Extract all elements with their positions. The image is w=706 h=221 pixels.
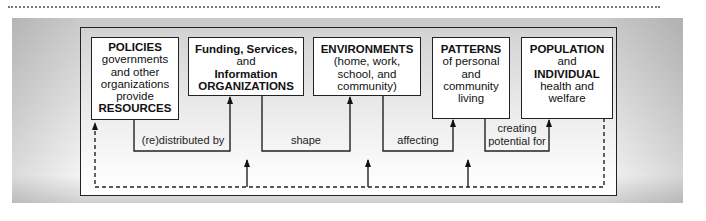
box-text: living xyxy=(433,92,509,104)
label-line: potential for xyxy=(486,135,548,148)
box-text: community xyxy=(433,80,509,92)
connector-label-shape: shape xyxy=(264,134,348,147)
box-text: organizations xyxy=(92,78,178,90)
box-text: and xyxy=(433,68,509,80)
box-text: (home, work, xyxy=(314,55,420,67)
box-text: health and xyxy=(522,80,612,92)
box-title: POPULATION xyxy=(522,43,612,55)
box-title: RESOURCES xyxy=(92,102,178,114)
box-text: provide xyxy=(92,90,178,102)
box-text: and xyxy=(522,55,612,67)
box-policies: POLICIES governments and other organizat… xyxy=(91,37,179,120)
box-title: ENVIRONMENTS xyxy=(314,43,420,55)
box-text: governments xyxy=(92,53,178,65)
box-population: POPULATION and INDIVIDUAL health and wel… xyxy=(521,37,613,119)
label-line: creating xyxy=(486,122,548,135)
box-title: Information xyxy=(189,68,303,80)
connector-label-redistributed: (re)distributed by xyxy=(137,134,229,147)
box-text: and other xyxy=(92,66,178,78)
box-text: welfare xyxy=(522,92,612,104)
box-text: of personal xyxy=(433,55,509,67)
box-title: INDIVIDUAL xyxy=(522,68,612,80)
connector-label-creating-potential: creating potential for xyxy=(486,122,548,147)
box-title: PATTERNS xyxy=(433,43,509,55)
connector-label-affecting: affecting xyxy=(385,134,451,147)
box-text: and xyxy=(189,55,303,67)
box-organizations: Funding, Services, and Information ORGAN… xyxy=(188,37,304,96)
box-patterns: PATTERNS of personal and community livin… xyxy=(432,37,510,119)
box-text: school, and xyxy=(314,68,420,80)
box-text: community) xyxy=(314,80,420,92)
box-title: ORGANIZATIONS xyxy=(189,80,303,92)
box-environments: ENVIRONMENTS (home, work, school, and co… xyxy=(313,37,421,96)
box-title: Funding, Services, xyxy=(189,43,303,55)
box-title: POLICIES xyxy=(92,41,178,53)
